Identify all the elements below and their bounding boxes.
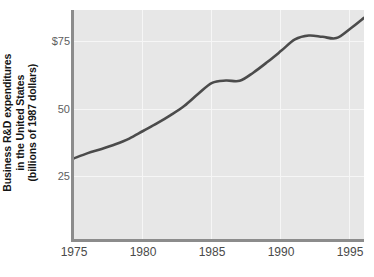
x-tick-label-1990: 1990 <box>253 245 309 259</box>
x-tick-label-1980: 1980 <box>115 245 171 259</box>
chart-figure: Business R&D expenditures in the United … <box>0 0 374 277</box>
y-tick-label-25: 25 <box>36 171 70 182</box>
x-axis-tick-labels: 1975 1980 1985 1990 1995 <box>74 245 364 265</box>
y-axis-title: Business R&D expenditures in the United … <box>0 0 40 245</box>
y-axis-title-text: Business R&D expenditures in the United … <box>1 53 39 191</box>
y-axis-title-line-1: Business R&D expenditures <box>1 53 14 191</box>
y-axis-tick-labels: $75 50 25 <box>36 0 70 245</box>
line-series-business-rd <box>74 18 364 159</box>
y-axis-title-line-2: in the United States <box>14 53 27 191</box>
x-axis-line <box>71 239 364 242</box>
x-tick-label-1995: 1995 <box>322 245 374 259</box>
y-tick-label-50: 50 <box>36 104 70 115</box>
plot-area <box>74 10 364 239</box>
x-tick-label-1975: 1975 <box>46 245 102 259</box>
y-tick-label-75: $75 <box>36 36 70 47</box>
x-tick-label-1985: 1985 <box>184 245 240 259</box>
data-series-svg <box>74 10 364 239</box>
